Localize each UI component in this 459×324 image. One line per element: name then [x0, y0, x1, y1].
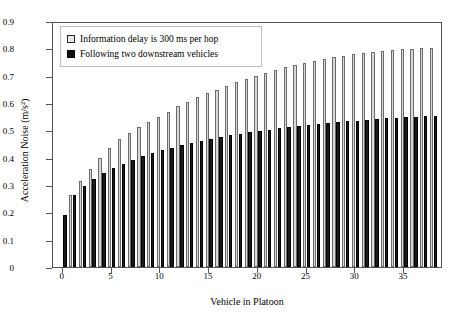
bar	[102, 173, 105, 267]
y-axis-tick-mark	[46, 213, 52, 214]
y-axis-tick-mark	[46, 49, 52, 50]
bar	[356, 121, 359, 268]
legend-item-label: Information delay is 300 ms per hop	[80, 34, 218, 44]
bar	[287, 127, 290, 267]
x-axis-tick-mark	[306, 268, 307, 273]
bar	[83, 186, 86, 267]
bar	[268, 130, 271, 267]
bar	[297, 126, 300, 267]
bar	[346, 121, 349, 267]
bar	[307, 125, 310, 267]
bar	[63, 215, 66, 267]
legend-swatch-open-square-icon	[67, 35, 75, 43]
bar	[317, 124, 320, 267]
bar	[326, 123, 329, 267]
chart-legend: Information delay is 300 ms per hop Foll…	[60, 26, 262, 67]
y-axis-tick-label: 0.1	[0, 236, 14, 245]
y-axis-tick-mark	[46, 104, 52, 105]
x-axis-tick-label: 0	[47, 272, 77, 281]
x-axis-tick-label: 10	[144, 272, 174, 281]
bar	[434, 116, 437, 267]
bar	[248, 132, 251, 267]
bar	[141, 156, 144, 267]
bar	[122, 164, 125, 267]
y-axis-tick-mark	[46, 186, 52, 187]
y-axis-label: Acceleration Noise (m/s²)	[19, 41, 30, 261]
x-axis-tick-label: 5	[96, 272, 126, 281]
legend-item: Following two downstream vehicles	[67, 46, 255, 61]
y-axis-tick-label: 0.9	[0, 18, 14, 27]
bar	[131, 160, 134, 267]
y-axis-tick-label: 0.4	[0, 154, 14, 163]
bar	[385, 118, 388, 267]
y-axis-tick-label: 0.3	[0, 182, 14, 191]
x-axis-tick-label: 25	[291, 272, 321, 281]
legend-item: Information delay is 300 ms per hop	[67, 31, 255, 46]
y-axis-tick-mark	[46, 241, 52, 242]
bar	[200, 141, 203, 267]
x-axis-tick-label: 20	[242, 272, 272, 281]
x-axis-label: Vehicle in Platoon	[52, 296, 442, 307]
y-axis-tick-label: 0.5	[0, 127, 14, 136]
y-axis-tick-mark	[46, 268, 52, 269]
bar	[151, 153, 154, 267]
y-axis-tick-mark	[46, 159, 52, 160]
bar	[229, 135, 232, 267]
legend-item-label: Following two downstream vehicles	[80, 49, 218, 59]
bar	[112, 168, 115, 267]
bar	[73, 195, 76, 267]
bar	[170, 148, 173, 267]
x-axis-tick-label: 35	[388, 272, 418, 281]
legend-swatch-filled-square-icon	[67, 50, 75, 58]
y-axis-tick-label: 0.2	[0, 209, 14, 218]
x-axis-tick-mark	[111, 268, 112, 273]
acceleration-noise-bar-chart: Acceleration Noise (m/s²) Vehicle in Pla…	[0, 0, 459, 324]
bar	[219, 137, 222, 267]
y-axis-tick-label: 0.8	[0, 45, 14, 54]
x-axis-tick-label: 30	[339, 272, 369, 281]
bar	[395, 118, 398, 267]
x-axis-tick-mark	[62, 268, 63, 273]
bar	[180, 145, 183, 267]
bar	[258, 131, 261, 267]
y-axis-tick-mark	[46, 77, 52, 78]
y-axis-tick-label: 0	[0, 264, 14, 273]
bar	[190, 143, 193, 267]
bar	[92, 179, 95, 267]
bar	[365, 120, 368, 267]
y-axis-tick-mark	[46, 131, 52, 132]
x-axis-tick-mark	[208, 268, 209, 273]
bar	[404, 117, 407, 267]
y-axis-tick-label: 0.6	[0, 100, 14, 109]
bar	[375, 119, 378, 267]
x-axis-tick-label: 15	[193, 272, 223, 281]
x-axis-tick-mark	[159, 268, 160, 273]
y-axis-tick-label: 0.7	[0, 72, 14, 81]
bar	[424, 116, 427, 267]
bar	[209, 139, 212, 267]
x-axis-tick-mark	[257, 268, 258, 273]
x-axis-tick-mark	[403, 268, 404, 273]
bar	[414, 117, 417, 267]
bar	[239, 134, 242, 267]
x-axis-tick-mark	[354, 268, 355, 273]
bar	[161, 150, 164, 267]
bar	[336, 122, 339, 267]
bar	[278, 128, 281, 267]
y-axis-tick-mark	[46, 22, 52, 23]
